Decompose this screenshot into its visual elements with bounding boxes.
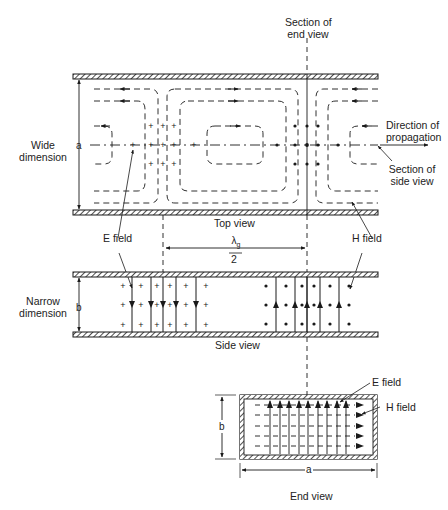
section-side-view-line1: Section of (386, 163, 438, 175)
section-end-view-line2: end view (285, 28, 331, 40)
lambda-denominator: 2 (231, 253, 237, 265)
svg-text:+: + (183, 300, 188, 310)
svg-text:+: + (203, 281, 208, 291)
svg-text:+: + (130, 140, 135, 150)
top-view-label: Top view (214, 217, 255, 229)
svg-text:+: + (154, 300, 159, 310)
side-section-leader (378, 146, 392, 161)
svg-text:+: + (138, 320, 143, 330)
svg-text:+: + (120, 300, 125, 310)
h-field-end-label: H field (386, 401, 416, 413)
svg-text:+: + (138, 300, 143, 310)
dim-a-label: a (76, 140, 82, 151)
svg-text:+: + (148, 140, 153, 150)
svg-text:+: + (160, 159, 165, 169)
section-end-view-line1: Section of (285, 16, 331, 28)
top-view: +++ +++++ +++ (73, 74, 378, 215)
svg-text:+: + (154, 281, 159, 291)
svg-text:+: + (171, 140, 176, 150)
narrow-dimension-label: Narrow dimension (18, 295, 68, 319)
svg-text:+: + (138, 281, 143, 291)
end-dim-b-label: b (219, 420, 225, 433)
svg-text:+: + (183, 281, 188, 291)
e-field-top-leader (118, 150, 133, 238)
side-view-lower-wall (73, 332, 378, 337)
dim-b-label: b (76, 302, 82, 313)
svg-text:+: + (120, 281, 125, 291)
svg-text:+: + (154, 320, 159, 330)
waveguide-diagram: +++ +++++ +++ (0, 0, 448, 510)
section-end-view-label: Section of end view (285, 16, 331, 40)
svg-text:+: + (167, 320, 172, 330)
svg-text:+: + (120, 320, 125, 330)
h-field-arrows (101, 89, 372, 126)
e-field-top-label: E field (103, 232, 132, 244)
wide-line1: Wide (18, 139, 68, 151)
narrow-line1: Narrow (18, 295, 68, 307)
svg-text:+: + (160, 140, 165, 150)
svg-text:+: + (167, 300, 172, 310)
end-view (215, 383, 380, 478)
e-field-end-label: E field (372, 376, 401, 388)
e-field-plus-marks: +++ +++++ +++ (130, 121, 196, 169)
lambda-label: λg (228, 235, 244, 251)
side-view-label: Side view (215, 339, 260, 351)
h-field-side-leader (350, 253, 362, 289)
svg-text:+: + (171, 121, 176, 131)
svg-text:+: + (203, 300, 208, 310)
top-view-lower-wall (73, 210, 378, 215)
top-view-upper-wall (73, 74, 378, 79)
svg-text:+: + (203, 320, 208, 330)
side-view-upper-wall (73, 272, 378, 277)
svg-text:+: + (167, 281, 172, 291)
direction-line1: Direction of (386, 119, 441, 131)
direction-of-propagation-label: Direction of propagation (386, 119, 441, 143)
svg-text:+: + (148, 121, 153, 131)
diagram-canvas: +++ +++++ +++ (0, 0, 448, 510)
svg-text:+: + (183, 320, 188, 330)
wide-dimension-label: Wide dimension (18, 139, 68, 163)
svg-text:+: + (191, 140, 196, 150)
direction-line2: propagation (386, 131, 441, 143)
section-side-view-label: Section of side view (386, 163, 438, 187)
narrow-line2: dimension (18, 307, 68, 319)
lambda-subscript: g (237, 241, 241, 248)
svg-text:+: + (171, 159, 176, 169)
e-field-lines-up (273, 277, 342, 332)
svg-text:+: + (148, 159, 153, 169)
end-dim-a-label: a (305, 464, 313, 475)
section-side-view-line2: side view (386, 175, 438, 187)
wide-line2: dimension (18, 151, 68, 163)
h-field-top-label: H field (352, 232, 382, 244)
svg-text:+: + (160, 121, 165, 131)
end-view-label: End view (290, 490, 333, 502)
side-view: ++++++ ++++++ ++++++ (73, 272, 378, 337)
